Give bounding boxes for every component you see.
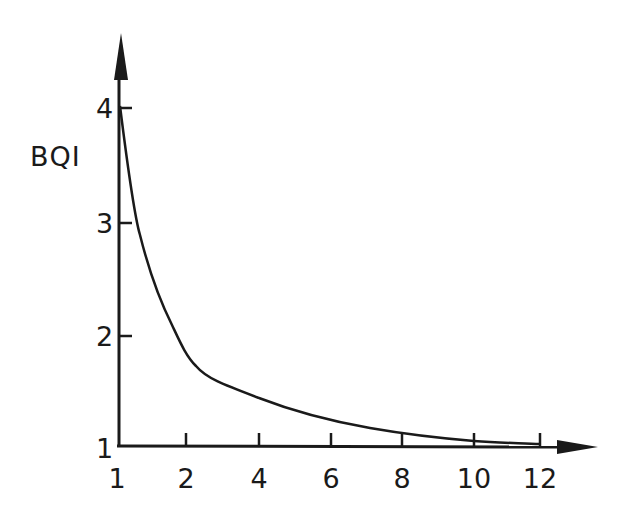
x-axis [117,446,560,447]
y-tick-label-3: 3 [96,208,113,239]
x-tick-label-8: 8 [393,463,410,494]
x-tick-label-10: 10 [457,463,491,494]
y-axis-title: BQI [30,141,81,172]
x-axis-arrow-icon [557,440,598,454]
y-tick-label-1: 1 [96,433,113,464]
x-tick-label-6: 6 [322,463,339,494]
x-tick-label-1: 1 [108,463,125,494]
y-tick-label-2: 2 [96,321,113,352]
x-tick-label-2: 2 [177,463,194,494]
bqi-curve [120,106,540,444]
x-tick-label-12: 12 [523,463,557,494]
x-tick-label-4: 4 [250,463,267,494]
bqi-chart: 4 3 2 1 BQI 1 2 4 6 8 10 12 [0,0,632,525]
y-axis-arrow-icon [114,33,128,80]
y-tick-label-4: 4 [96,93,113,124]
x-ticks [186,433,540,446]
